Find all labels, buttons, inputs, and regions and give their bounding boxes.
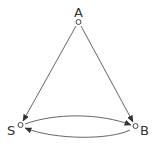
node-s: S (7, 123, 23, 139)
node-a: A (74, 5, 83, 25)
node-s-label: S (7, 123, 15, 138)
node-a-label: A (74, 5, 83, 20)
node-a-circle (76, 20, 81, 25)
edge-a-to-s (23, 26, 76, 121)
node-b-label: B (140, 123, 149, 138)
edge-s-to-b (25, 116, 131, 125)
graph-diagram: A S B (0, 0, 158, 147)
node-b: B (133, 123, 149, 138)
node-b-circle (133, 124, 138, 129)
node-s-circle (18, 123, 23, 128)
edge-b-to-s (25, 128, 130, 137)
edge-a-to-b (81, 26, 133, 122)
